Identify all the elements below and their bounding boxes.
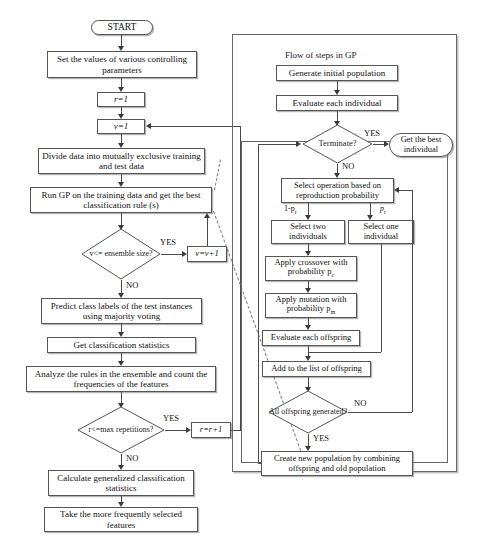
node-v-increment: v=v+1 [187, 246, 227, 262]
node-apply-mutation-label: Apply mutation with probability pm [269, 295, 353, 316]
node-v-init: v=1 [97, 119, 145, 134]
connector-ensemble-yes [161, 254, 184, 255]
connector-createpop-up [258, 144, 259, 464]
edge-label-prob-not-reproduction-text: 1-p [284, 204, 295, 213]
node-apply-crossover: Apply crossover with probability pc [265, 256, 357, 281]
edge-label-terminate-yes: YES [364, 128, 380, 138]
edge-label-prob-reproduction: pr [380, 204, 386, 215]
callout-dashed-line-top [214, 160, 221, 191]
edge-label-reps-yes: YES [163, 413, 179, 423]
node-add-to-offspring-list: Add to the list of offspring [262, 361, 371, 377]
node-evaluate-offspring: Evaluate each offspring [262, 330, 360, 346]
connector-offspring-no-to-selectop [399, 190, 412, 191]
node-predict: Predict class labels of the test instanc… [41, 298, 202, 324]
connector-offspring-no-right [348, 412, 412, 413]
node-r-init: r=1 [97, 92, 145, 107]
connector-selectone-down [381, 244, 382, 352]
arrowhead [296, 141, 301, 147]
edge-label-ensemble-yes: YES [160, 237, 176, 247]
node-select-operation: Select operation based on reproduction p… [281, 178, 394, 203]
mutation-sub: m [330, 309, 335, 315]
node-create-new-population: Create new population by combining offsp… [261, 451, 413, 476]
node-take-features: Take the more frequently selected featur… [44, 507, 198, 532]
gp-panel-title: Flow of steps in GP [285, 50, 357, 60]
node-evaluate-individual: Evaluate each individual [276, 95, 398, 111]
node-select-one-individual: Select one individual [348, 220, 414, 244]
node-apply-crossover-label: Apply crossover with probability pc [269, 258, 353, 279]
node-start: START [91, 20, 153, 35]
node-run-gp: Run GP on the training data and get the … [30, 187, 212, 213]
edge-label-prob-reproduction-sub: r [384, 209, 386, 215]
flowchart-figure: START Set the values of various controll… [0, 0, 483, 539]
node-terminate-label: Terminate? [302, 124, 373, 164]
edge-label-prob-not-reproduction-sub: r [295, 209, 297, 215]
node-set-params: Set the values of various controlling pa… [47, 51, 197, 78]
connector-vinc-up [207, 218, 208, 246]
node-divide-data: Divide data into mutually exclusive trai… [38, 148, 205, 174]
node-all-offspring-label: All offspring generated? [268, 390, 348, 434]
connector-createpop-to-terminate [258, 144, 297, 145]
crossover-sub: c [331, 272, 334, 278]
arrowhead [204, 213, 210, 218]
mutation-text: Apply mutation with probability p [276, 294, 347, 314]
node-reps-check-label: r<=max repetitions? [77, 406, 165, 454]
node-all-offspring-generated: All offspring generated? [268, 390, 348, 434]
arrowhead [146, 123, 151, 129]
node-ensemble-check-label: v<= ensemble size? [81, 228, 161, 280]
node-select-two-individuals: Select two individuals [271, 220, 345, 244]
edge-label-terminate-no: NO [342, 161, 354, 171]
crossover-text: Apply crossover with probability p [274, 257, 347, 277]
edge-label-reps-no: NO [126, 453, 138, 463]
node-terminate: Terminate? [302, 124, 373, 164]
connector-ensemble-no [121, 280, 122, 294]
node-ensemble-check: v<= ensemble size? [81, 228, 161, 280]
edge-label-ensemble-no: NO [126, 280, 138, 290]
edge-label-prob-not-reproduction: 1-pr [284, 204, 297, 215]
connector-reps-yes [165, 430, 188, 431]
edge-label-offspring-no: NO [354, 398, 366, 408]
node-apply-mutation: Apply mutation with probability pm [265, 293, 357, 318]
connector-selectone-to-add [308, 352, 381, 353]
arrowhead [394, 187, 399, 193]
node-analyze-rules: Analyze the rules in the ensemble and co… [26, 366, 216, 392]
node-generate-population: Generate initial population [276, 65, 398, 81]
connector-rinc-to-vinit [151, 126, 240, 127]
edge-label-offspring-yes: YES [313, 433, 329, 443]
node-reps-check: r<=max repetitions? [77, 406, 165, 454]
node-calc-generalized: Calculate generalized classification sta… [48, 470, 194, 496]
node-r-increment: r=r+1 [191, 422, 231, 438]
node-get-stats: Get classification statistics [47, 337, 196, 353]
connector-offspring-no-up [412, 190, 413, 412]
node-get-best-individual: Get the best individual [389, 133, 453, 157]
